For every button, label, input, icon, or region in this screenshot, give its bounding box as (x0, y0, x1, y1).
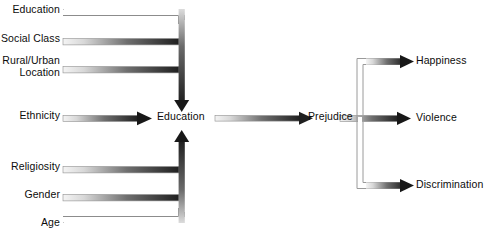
link-education-origin (63, 10, 185, 25)
collector-arrow-up (174, 130, 189, 223)
outcome-label-discrimination: Discrimination (416, 179, 497, 191)
collector-arrow-down (174, 9, 189, 112)
predictor-label-religiosity: Religiosity (0, 161, 60, 173)
predictor-label-ethnicity: Ethnicity (0, 110, 60, 122)
rural-urban-line2: Location (20, 66, 61, 78)
link-gender (63, 195, 179, 201)
outcome-label-happiness: Happiness (416, 55, 496, 67)
outcome-label-violence: Violence (416, 112, 496, 124)
path-diagram: Education Social Class Rural/UrbanLocati… (0, 0, 497, 236)
predictor-label-age: Age (0, 217, 60, 229)
predictor-label-gender: Gender (0, 189, 60, 201)
predictor-label-rural-urban: Rural/UrbanLocation (0, 55, 60, 78)
mediator-label-education: Education (157, 111, 217, 123)
rural-urban-line1: Rural/Urban (2, 54, 60, 66)
link-age (63, 208, 185, 223)
link-religiosity (63, 167, 179, 173)
predictor-label-education-origin: Education (0, 4, 60, 16)
link-ethnicity (63, 112, 152, 126)
link-prejudice-discrimination (357, 116, 414, 192)
predictor-label-social-class: Social Class (0, 33, 60, 45)
link-social-class (63, 39, 179, 45)
mediator-label-prejudice: Prejudice (308, 111, 368, 123)
link-education-prejudice (215, 112, 313, 125)
link-rural-urban (63, 67, 179, 73)
